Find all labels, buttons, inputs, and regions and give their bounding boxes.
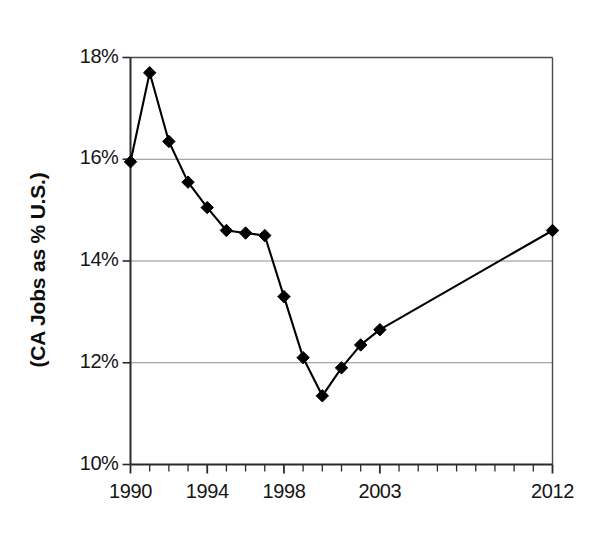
data-line-series: [131, 73, 553, 396]
data-point-marker: [143, 67, 155, 79]
data-point-markers: [124, 67, 558, 402]
y-axis-label: (CA Jobs as % U.S.): [26, 100, 50, 440]
x-axis-ticks: [131, 465, 553, 474]
y-axis-tick-label: 18%: [57, 45, 119, 68]
data-point-marker: [278, 290, 290, 302]
data-point-marker: [297, 351, 309, 363]
x-axis-tick-label: 1998: [244, 480, 324, 503]
data-point-marker: [163, 135, 175, 147]
series-line: [131, 73, 553, 396]
y-axis-tick-label: 10%: [57, 452, 119, 475]
x-axis-tick-label: 2012: [513, 480, 593, 503]
chart-figure: (CA Jobs as % U.S.) 18%16%14%12%10% 1990…: [0, 0, 595, 534]
data-point-marker: [259, 229, 271, 241]
data-point-marker: [239, 227, 251, 239]
x-axis-tick-label: 2003: [340, 480, 420, 503]
y-axis-ticks: [123, 58, 131, 465]
x-axis-tick-label: 1994: [167, 480, 247, 503]
data-point-marker: [546, 224, 558, 236]
data-point-marker: [316, 390, 328, 402]
data-point-marker: [124, 156, 136, 168]
y-axis-tick-label: 14%: [57, 248, 119, 271]
x-axis-tick-label: 1990: [91, 480, 171, 503]
y-axis-tick-label: 16%: [57, 146, 119, 169]
y-axis-tick-label: 12%: [57, 350, 119, 373]
